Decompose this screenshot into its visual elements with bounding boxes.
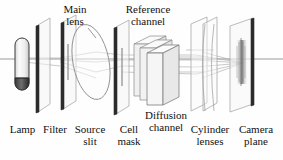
filter-plate (36, 18, 50, 113)
diffusion-channel-box (147, 45, 179, 105)
label-cylinder-lenses: Cylinder lenses (188, 124, 232, 147)
label-filter: Filter (39, 124, 71, 136)
label-lamp-line1: Lamp (6, 124, 39, 136)
lamp-capsule (15, 38, 29, 90)
label-camera-plane: Camera plane (234, 124, 278, 147)
optical-system-diagram: Main lens Reference channel Lamp Filter … (0, 0, 283, 160)
label-source-slit-line1: Source (70, 124, 110, 136)
label-reference-channel-line2: channel (119, 16, 177, 28)
focused-image-spot (236, 38, 248, 86)
label-camera-plane-line1: Camera (234, 124, 278, 136)
label-main-lens-line1: Main (58, 4, 92, 16)
cylinder-lens-plate-pair (191, 17, 217, 111)
cell-mask-plate (114, 20, 129, 115)
label-reference-channel-line1: Reference (119, 4, 177, 16)
label-cell-mask-line2: mask (113, 136, 145, 148)
label-diffusion-channel: Diffusion channel (141, 110, 191, 133)
label-lamp: Lamp (6, 124, 39, 136)
label-main-lens-line2: lens (58, 16, 92, 28)
label-source-slit: Source slit (70, 124, 110, 147)
label-cylinder-lenses-line1: Cylinder (188, 124, 232, 136)
label-source-slit-line2: slit (70, 136, 110, 148)
label-reference-channel: Reference channel (119, 4, 177, 27)
label-cylinder-lenses-line2: lenses (188, 136, 232, 148)
label-camera-plane-line2: plane (234, 136, 278, 148)
label-diffusion-channel-line1: Diffusion (141, 110, 191, 122)
label-diffusion-channel-line2: channel (141, 122, 191, 134)
label-filter-line1: Filter (39, 124, 71, 136)
label-main-lens: Main lens (58, 4, 92, 27)
camera-plane-plate (230, 18, 254, 112)
